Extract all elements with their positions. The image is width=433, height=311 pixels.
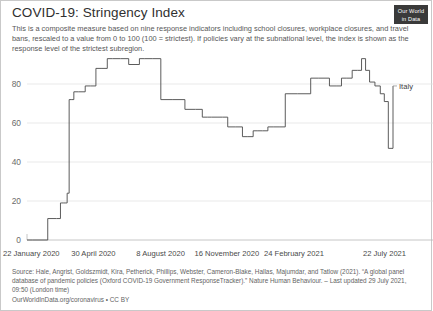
- owid-coronavirus-link[interactable]: OurWorldInData.org/coronavirus: [12, 296, 104, 303]
- y-tick-label: 20: [12, 196, 22, 206]
- page-title: COVID-19: Stringency Index: [12, 5, 185, 20]
- plot-area: 020406080 Italy: [1, 56, 433, 251]
- license-label: CC BY: [110, 296, 130, 303]
- series-line-italy: [27, 59, 393, 240]
- x-tick-label: 8 August 2020: [136, 249, 185, 258]
- x-tick-label: 22 January 2020: [3, 249, 60, 258]
- y-tick-label: 80: [12, 79, 22, 89]
- y-tick-label: 0: [16, 235, 21, 245]
- x-tick-label: 22 July 2021: [363, 249, 406, 258]
- y-tick-label: 40: [12, 157, 22, 167]
- source-line-3: 09:50 (London time): [12, 285, 422, 294]
- x-tick-label: 24 February 2021: [264, 249, 324, 258]
- y-axis-tick-labels: 020406080: [12, 79, 22, 245]
- x-tick-label: 16 November 2020: [195, 249, 260, 258]
- y-tick-label: 60: [12, 118, 22, 128]
- owid-logo-line-1: Our World: [394, 7, 428, 15]
- series-label-italy: Italy: [399, 82, 413, 91]
- owid-logo-line-2: in Data: [394, 15, 428, 23]
- line-chart-svg: 020406080 Italy: [1, 56, 433, 251]
- x-tick-label: 30 April 2020: [71, 249, 115, 258]
- x-axis-tick-labels: 22 January 202030 April 20208 August 202…: [1, 249, 433, 261]
- source-line-1: Source: Hale, Angrist, Goldszmidt, Kira,…: [12, 267, 422, 276]
- source-line-2: database of pandemic policies (Oxford CO…: [12, 276, 422, 285]
- chart-footer: Source: Hale, Angrist, Goldszmidt, Kira,…: [12, 267, 422, 304]
- owid-logo[interactable]: Our World in Data: [394, 5, 428, 24]
- footer-link-row: OurWorldInData.org/coronavirus • CC BY: [12, 295, 422, 304]
- chart-subtitle: This is a composite measure based on nin…: [12, 24, 412, 55]
- gridlines: [27, 84, 433, 240]
